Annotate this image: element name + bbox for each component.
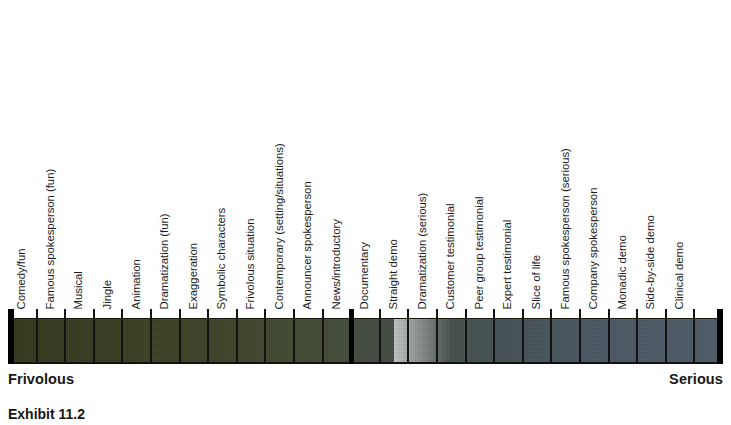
bar-tick [693, 309, 695, 364]
bar-major-divider [349, 309, 354, 364]
bar-tick [64, 309, 66, 364]
category-label-text: Slice of life [531, 255, 542, 309]
bar-tick [293, 309, 295, 364]
bar-tick [379, 309, 381, 364]
exhibit-caption: Exhibit 11.2 [8, 406, 85, 422]
anchor-label-serious: Serious [669, 371, 723, 387]
category-label-text: Symbolic characters [216, 207, 227, 309]
bar-tick [36, 309, 38, 364]
category-label: Animation [122, 0, 151, 311]
bar-tick [579, 309, 581, 364]
category-label-text: Monadic demo [617, 235, 628, 309]
category-label: Famous spokesperson (serious) [551, 0, 580, 311]
bar-tick [322, 309, 324, 364]
category-label: Musical [65, 0, 94, 311]
category-label: Dramatization (fun) [151, 0, 180, 311]
category-label: Clinical demo [666, 0, 695, 311]
category-label-text: Musical [73, 271, 84, 309]
category-label-text: Jingle [102, 280, 113, 309]
continuum-chart: Comedy/funFamous spokesperson (fun)Music… [0, 0, 731, 425]
category-label-text: Famous spokesperson (serious) [559, 148, 570, 309]
category-label-text: Dramatization (serious) [416, 192, 427, 309]
bar-end-cap-right [717, 309, 723, 364]
bar-tick [493, 309, 495, 364]
category-label: Famous spokesperson (fun) [37, 0, 66, 311]
category-label-text: Expert testimonial [502, 219, 513, 309]
bar-tick [407, 309, 409, 364]
bar-tick [150, 309, 152, 364]
category-label: Contemporary (setting/situations) [265, 0, 294, 311]
bar-tick [436, 309, 438, 364]
category-label-text: Contemporary (setting/situations) [273, 143, 284, 309]
category-label: Company spokesperson [580, 0, 609, 311]
category-label-text: Famous spokesperson (fun) [45, 168, 56, 309]
category-label-text: Clinical demo [674, 241, 685, 309]
bar-tick [465, 309, 467, 364]
category-label: Side-by-side demo [637, 0, 666, 311]
category-label: Monadic demo [609, 0, 638, 311]
continuum-bar [8, 318, 723, 364]
category-label: Dramatization (serious) [408, 0, 437, 311]
category-label-text: Straight demo [388, 239, 399, 309]
category-labels: Comedy/funFamous spokesperson (fun)Music… [8, 0, 723, 311]
category-label-text: Company spokesperson [588, 187, 599, 309]
category-label-text: News/introductory [331, 219, 342, 309]
bar-tick [665, 309, 667, 364]
category-label-text: Documentary [359, 242, 370, 309]
bar-tick [179, 309, 181, 364]
bar-tick [236, 309, 238, 364]
anchor-label-frivolous: Frivolous [8, 371, 74, 387]
category-label: Jingle [94, 0, 123, 311]
category-label-text: Dramatization (fun) [159, 213, 170, 309]
category-label: Expert testimonial [494, 0, 523, 311]
bar-tick [608, 309, 610, 364]
category-label: Customer testimonial [437, 0, 466, 311]
bar-end-cap-left [8, 309, 14, 364]
category-label: Announcer spokesperson [294, 0, 323, 311]
category-label: Straight demo [380, 0, 409, 311]
category-label: Slice of life [523, 0, 552, 311]
category-label-text: Peer group testimonial [474, 196, 485, 309]
category-label: Peer group testimonial [466, 0, 495, 311]
bar-tick [550, 309, 552, 364]
bar-tick [93, 309, 95, 364]
category-label: News/introductory [323, 0, 352, 311]
bar-tick [636, 309, 638, 364]
bar-tick [264, 309, 266, 364]
bar-tick [522, 309, 524, 364]
category-label-text: Announcer spokesperson [302, 181, 313, 309]
category-label-text: Frivolous situation [245, 218, 256, 309]
category-label: Comedy/fun [8, 0, 37, 311]
category-label-text: Exaggeration [188, 242, 199, 309]
category-label-text: Animation [130, 259, 141, 309]
category-label: Symbolic characters [208, 0, 237, 311]
category-label-text: Customer testimonial [445, 203, 456, 309]
bar-tick [121, 309, 123, 364]
category-label-text: Side-by-side demo [645, 215, 656, 309]
bar-gradient-fill [8, 318, 723, 364]
category-label-text: Comedy/fun [16, 248, 27, 309]
category-label: Frivolous situation [237, 0, 266, 311]
category-label: Exaggeration [180, 0, 209, 311]
category-label: Documentary [351, 0, 380, 311]
bar-tick [207, 309, 209, 364]
